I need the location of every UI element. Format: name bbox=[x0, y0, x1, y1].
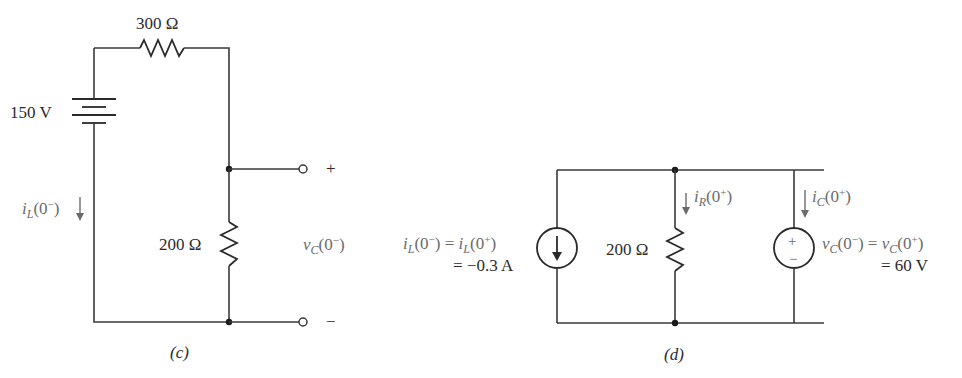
panel-c-caption: (c) bbox=[170, 343, 189, 362]
source-minus-sign: − bbox=[789, 251, 797, 267]
plus-terminal-label: + bbox=[326, 159, 336, 178]
series-resistor-label: 300 Ω bbox=[136, 14, 178, 33]
vc-voltage-label: vC(0−) bbox=[303, 234, 345, 257]
node-dot bbox=[672, 320, 678, 326]
shunt-resistor-label: 200 Ω bbox=[159, 235, 201, 254]
circuit-figure: 300 Ω 150 V 200 Ω + − iL(0−) vC(0−) (c) bbox=[0, 0, 962, 378]
down-arrow-icon bbox=[552, 236, 562, 261]
terminal-plus bbox=[299, 165, 307, 173]
panel-c: 300 Ω 150 V 200 Ω + − iL(0−) vC(0−) (c) bbox=[10, 14, 345, 362]
ic-current-label: iC(0+) bbox=[812, 186, 851, 209]
battery-icon bbox=[72, 99, 116, 123]
panel-d-caption: (d) bbox=[664, 345, 684, 364]
battery-label: 150 V bbox=[10, 103, 52, 122]
ic-arrow-icon bbox=[801, 190, 809, 218]
resistor-200-label: 200 Ω bbox=[606, 240, 648, 259]
series-resistor-300 bbox=[140, 40, 184, 56]
wire bbox=[184, 48, 229, 169]
current-source-eq-line1: iL(0−) = iL(0+) bbox=[403, 233, 496, 256]
source-plus-sign: + bbox=[788, 233, 796, 249]
il-current-label: iL(0−) bbox=[22, 198, 59, 221]
current-arrow-icon bbox=[76, 197, 84, 221]
resistor-200 bbox=[667, 228, 683, 271]
voltage-source-eq-line1: vC(0−) = vC(0+) bbox=[822, 233, 923, 256]
terminal-minus bbox=[299, 318, 307, 326]
minus-terminal-label: − bbox=[326, 312, 336, 331]
ir-current-label: iR(0+) bbox=[694, 186, 732, 209]
ir-arrow-icon bbox=[682, 193, 690, 215]
current-source-eq-line2: = −0.3 A bbox=[453, 256, 514, 275]
wire bbox=[94, 123, 229, 322]
shunt-resistor-200 bbox=[221, 222, 237, 266]
voltage-source-eq-line2: = 60 V bbox=[881, 256, 929, 275]
panel-d: + − iR(0+) iC(0+) 200 Ω iL(0−) = iL(0+) … bbox=[403, 167, 929, 364]
